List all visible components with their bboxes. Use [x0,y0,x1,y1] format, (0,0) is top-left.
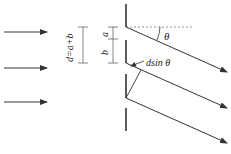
diffracted-rays [126,27,227,143]
angle-arc [157,27,160,40]
opaque-width-label: b [99,50,110,55]
incident-rays [4,32,47,102]
path-difference-line [126,70,141,98]
grating-diagram: d=a+b a b θ dsin θ [0,0,231,154]
path-difference-pointer [131,61,144,66]
path-difference-label: dsin θ [146,57,170,68]
diffracted-ray-2 [126,63,227,108]
diffracted-ray-1 [126,27,227,72]
dimension-d [78,27,88,63]
period-label: d=a+b [64,34,75,63]
slit-width-label: a [99,32,110,37]
diffracted-ray-3 [126,98,227,143]
angle-label: θ [164,30,170,42]
